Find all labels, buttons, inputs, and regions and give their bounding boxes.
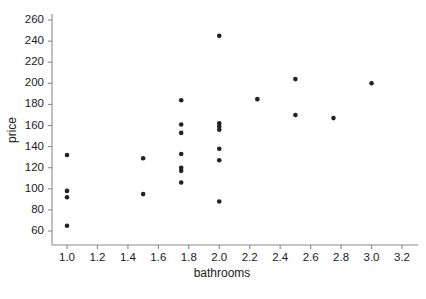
data-point (331, 116, 336, 121)
data-point (141, 192, 146, 197)
data-point (65, 189, 70, 194)
x-tick-label: 1.6 (150, 251, 166, 263)
x-tick-label: 2.8 (333, 251, 349, 263)
scatter-plot-canvas: 6080100120140160180200220240260 1.01.21.… (0, 0, 426, 299)
y-tick-label: 220 (25, 55, 44, 67)
y-tick-label: 80 (31, 203, 44, 215)
y-tick-label: 240 (25, 34, 44, 46)
data-point (217, 199, 222, 204)
data-point (141, 156, 146, 161)
x-tick-label: 3.2 (394, 251, 410, 263)
data-point (369, 81, 374, 86)
y-tick-label: 180 (25, 97, 44, 109)
data-point (217, 158, 222, 163)
x-axis: 1.01.21.41.61.82.02.22.42.62.83.03.2 (52, 245, 418, 263)
data-point (179, 98, 184, 103)
data-point (293, 113, 298, 118)
y-tick-label: 140 (25, 140, 44, 152)
data-point (179, 180, 184, 185)
x-tick-label: 1.4 (120, 251, 137, 263)
y-tick-label: 100 (25, 182, 44, 194)
x-tick-label: 2.6 (303, 251, 319, 263)
data-point (217, 34, 222, 39)
data-point (65, 153, 70, 158)
data-point (179, 152, 184, 157)
y-tick-label: 160 (25, 119, 44, 131)
y-tick-label: 120 (25, 161, 44, 173)
data-point (217, 146, 222, 151)
scatter-plot-figure: 6080100120140160180200220240260 1.01.21.… (0, 0, 426, 299)
data-point (65, 195, 70, 200)
data-point (179, 131, 184, 136)
data-point (255, 97, 260, 102)
data-point (179, 122, 184, 127)
x-tick-label: 2.4 (272, 251, 289, 263)
data-point (65, 223, 70, 228)
y-tick-label: 260 (25, 13, 44, 25)
x-tick-label: 3.0 (364, 251, 380, 263)
y-tick-label: 60 (31, 224, 44, 236)
data-point (217, 127, 222, 132)
y-tick-label: 200 (25, 76, 44, 88)
x-tick-label: 1.2 (89, 251, 105, 263)
data-point (293, 77, 298, 82)
data-point-layer (65, 34, 374, 229)
x-tick-label: 1.8 (181, 251, 197, 263)
y-axis: 6080100120140160180200220240260 (25, 13, 52, 245)
x-axis-title: bathrooms (194, 266, 251, 280)
x-tick-label: 1.0 (59, 251, 75, 263)
x-tick-label: 2.2 (242, 251, 258, 263)
x-tick-label: 2.0 (211, 251, 227, 263)
y-axis-title: price (5, 117, 19, 143)
data-point (179, 169, 184, 174)
